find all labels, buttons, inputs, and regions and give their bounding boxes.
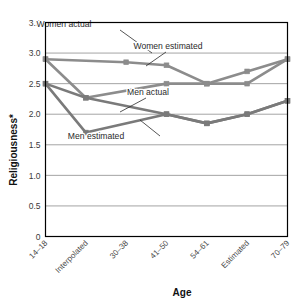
annotation-label: Women estimated (133, 41, 202, 51)
data-point-marker (164, 81, 169, 86)
y-tick-label: 2.5 (29, 79, 41, 89)
religiousness-by-age-chart: 00.51.01.52.02.53.03.5 14–18Interpolated… (0, 0, 308, 304)
data-point-marker (245, 112, 250, 117)
y-tick-label: 1.5 (29, 140, 41, 150)
data-point-marker (83, 95, 88, 100)
y-tick-label: 2.0 (29, 109, 41, 119)
y-tick-label: 1.0 (29, 171, 41, 181)
annotation-label: Women actual (37, 19, 92, 29)
data-point-marker (204, 81, 209, 86)
data-point-marker (245, 81, 250, 86)
annotation-label: Men estimated (68, 131, 125, 141)
chart-canvas: 00.51.01.52.02.53.03.5 14–18Interpolated… (0, 0, 308, 304)
data-point-marker (204, 121, 209, 126)
y-tick-label: 0.5 (29, 201, 41, 211)
y-tick-label: 3.0 (29, 48, 41, 58)
x-axis-title: Age (173, 287, 192, 298)
y-axis-title: Religiousness* (8, 114, 19, 186)
annotation-label: Men actual (127, 87, 169, 97)
data-point-marker (245, 69, 250, 74)
data-point-marker (124, 60, 129, 65)
data-point-marker (164, 112, 169, 117)
data-point-marker (164, 63, 169, 68)
